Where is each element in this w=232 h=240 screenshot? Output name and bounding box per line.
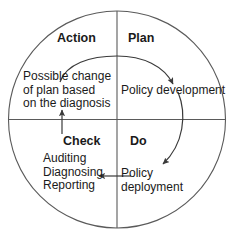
- quadrant-body-check: Auditing Diagnosing Reporting: [43, 152, 103, 193]
- quadrant-title-action: Action: [57, 32, 96, 46]
- quadrant-title-plan: Plan: [128, 32, 154, 46]
- quadrant-title-check: Check: [63, 135, 101, 149]
- arrow-development-to-deployment: [163, 92, 183, 164]
- pdca-diagram-graphics: [0, 0, 232, 240]
- quadrant-body-action: Possible change of plan based on the dia…: [23, 70, 111, 111]
- pdca-diagram-canvas: Action Plan Check Do Possible change of …: [0, 0, 232, 240]
- quadrant-body-do: Policy deployment: [121, 167, 183, 194]
- quadrant-body-plan: Policy development: [121, 84, 225, 98]
- quadrant-title-do: Do: [130, 135, 147, 149]
